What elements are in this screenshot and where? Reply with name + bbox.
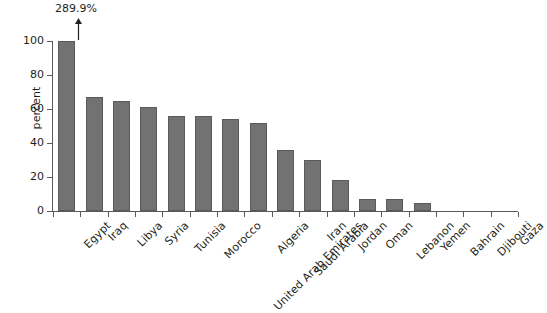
x-axis-tick xyxy=(409,212,410,217)
x-axis-line xyxy=(52,211,518,212)
x-axis-tick xyxy=(272,212,273,217)
plot-area xyxy=(53,41,518,211)
bar[interactable] xyxy=(168,116,185,211)
bar[interactable] xyxy=(195,116,212,211)
bar[interactable] xyxy=(304,160,321,211)
bar[interactable] xyxy=(113,101,130,212)
x-axis-tick xyxy=(327,212,328,217)
y-axis-tick-label: 0 xyxy=(14,205,44,216)
y-axis-tick xyxy=(47,109,52,110)
x-axis-tick xyxy=(135,212,136,217)
bar[interactable] xyxy=(58,41,75,211)
y-axis-tick-label: 40 xyxy=(14,137,44,148)
y-axis-tick xyxy=(47,41,52,42)
x-axis-tick xyxy=(518,212,519,217)
y-axis-tick-label: 60 xyxy=(14,103,44,114)
bar[interactable] xyxy=(359,199,376,211)
bar[interactable] xyxy=(86,97,103,211)
x-axis-tick xyxy=(244,212,245,217)
y-axis-tick xyxy=(47,75,52,76)
x-axis-tick xyxy=(162,212,163,217)
bar[interactable] xyxy=(277,150,294,211)
up-arrow-icon xyxy=(74,18,83,40)
x-axis-tick xyxy=(491,212,492,217)
bar[interactable] xyxy=(140,107,157,211)
x-axis-tick xyxy=(299,212,300,217)
x-axis-tick xyxy=(381,212,382,217)
x-axis-tick xyxy=(436,212,437,217)
x-axis-label: Algeria xyxy=(275,219,312,256)
overflow-value-label: 289.9% xyxy=(44,2,108,15)
bar[interactable] xyxy=(222,119,239,211)
y-axis-tick-label: 80 xyxy=(14,69,44,80)
x-axis-tick xyxy=(217,212,218,217)
y-axis-tick xyxy=(47,177,52,178)
x-axis-tick xyxy=(463,212,464,217)
x-axis-tick xyxy=(108,212,109,217)
x-axis-tick xyxy=(80,212,81,217)
x-axis-tick xyxy=(354,212,355,217)
bar[interactable] xyxy=(332,180,349,211)
x-axis-label: Syria xyxy=(162,219,191,248)
bar[interactable] xyxy=(414,203,431,212)
x-axis-label: Iraq xyxy=(105,219,130,244)
y-axis-tick-label: 20 xyxy=(14,171,44,182)
bar[interactable] xyxy=(386,199,403,211)
x-axis-label: Morocco xyxy=(222,219,264,261)
x-axis-tick xyxy=(190,212,191,217)
y-axis-tick-label: 100 xyxy=(14,35,44,46)
bar[interactable] xyxy=(250,123,267,211)
y-axis-tick xyxy=(47,143,52,144)
x-axis-tick xyxy=(53,212,54,217)
x-axis-label: Libya xyxy=(135,219,165,249)
x-axis-label: Oman xyxy=(382,219,415,252)
